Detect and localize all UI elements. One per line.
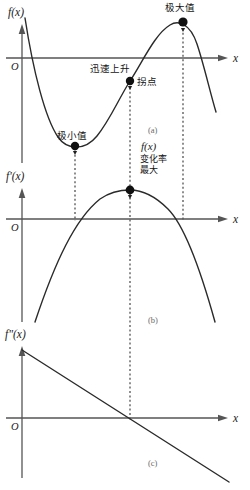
label-inflection-point: 拐点 <box>137 76 157 87</box>
panel-c-origin-label: O <box>11 421 19 432</box>
inflection-dot <box>126 77 134 85</box>
panel-b-x-axis-arrow <box>218 216 228 223</box>
panel-b: f'(x) x O (b) <box>6 170 239 325</box>
panel-a-curve <box>25 18 216 147</box>
label-local-maximum: 极大值 <box>165 2 195 13</box>
label-rate-max: 最大 <box>140 164 158 175</box>
panel-a-y-axis-arrow <box>19 24 26 34</box>
panel-a-x-axis-label: x <box>232 52 239 64</box>
local-minimum-tick-icon <box>73 151 77 155</box>
local-minimum-dot <box>71 142 79 150</box>
panel-c: f"(x) x O (c) <box>5 328 239 482</box>
local-maximum-dot <box>178 17 187 26</box>
panel-b-origin-label: O <box>11 222 19 233</box>
panel-b-x-axis-label: x <box>232 213 239 225</box>
figure-root: f(x) x O 极大值 极小值 迅速上升 拐点 (a) f(x) 变化率 最大… <box>0 0 250 490</box>
derivative-figure: f(x) x O 极大值 极小值 迅速上升 拐点 (a) f(x) 变化率 最大… <box>0 0 250 490</box>
panel-a-origin-label: O <box>11 61 19 72</box>
panel-b-y-axis-label: f'(x) <box>6 170 25 183</box>
label-rate-fx: f(x) <box>141 140 157 153</box>
inflection-tick-icon <box>128 86 132 90</box>
panel-b-vertex-tick-icon <box>128 195 132 199</box>
panel-b-y-axis-arrow <box>19 188 26 198</box>
panel-a-caption: (a) <box>148 125 158 135</box>
local-maximum-tick-icon <box>181 28 185 32</box>
panel-a-y-axis-label: f(x) <box>8 6 24 19</box>
panel-c-y-axis-label: f"(x) <box>5 328 26 341</box>
panel-c-caption: (c) <box>148 458 158 468</box>
label-local-minimum: 极小值 <box>57 130 87 141</box>
panel-a: f(x) x O 极大值 极小值 迅速上升 拐点 (a) f(x) 变化率 最大 <box>6 2 239 175</box>
panel-a-x-axis-arrow <box>218 55 228 62</box>
panel-c-curve <box>22 350 229 482</box>
panel-b-curve <box>35 190 215 322</box>
panel-b-caption: (b) <box>148 315 158 325</box>
panel-c-x-axis-label: x <box>232 412 239 424</box>
label-rapid-rise: 迅速上升 <box>90 63 130 74</box>
panel-b-vertex-dot <box>126 186 135 195</box>
panel-c-x-axis-arrow <box>218 415 228 422</box>
label-rate-change: 变化率 <box>140 153 167 164</box>
